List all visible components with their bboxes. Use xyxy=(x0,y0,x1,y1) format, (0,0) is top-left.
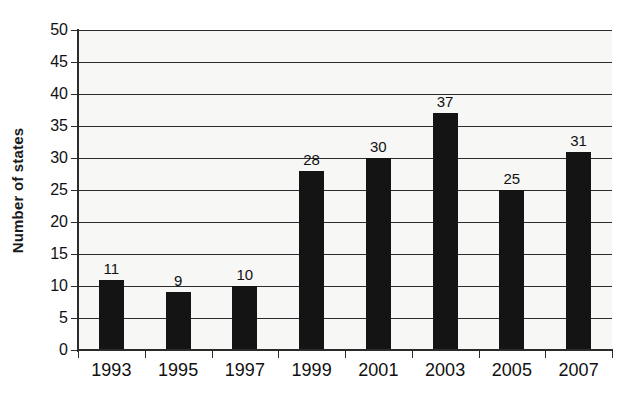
y-axis-tick-label: 20 xyxy=(38,213,68,231)
x-axis-tick-label: 2005 xyxy=(479,360,545,381)
x-axis-tick-label: 2003 xyxy=(412,360,478,381)
y-axis-title: Number of states xyxy=(2,60,34,320)
x-axis-tick-mark xyxy=(412,350,413,358)
x-axis-tick-mark xyxy=(278,350,279,358)
x-axis-tick-label: 2007 xyxy=(546,360,612,381)
y-axis-tick-mark xyxy=(71,286,78,287)
bar-value-label: 11 xyxy=(91,260,131,277)
y-axis-tick-label: 40 xyxy=(38,85,68,103)
x-axis-tick-mark xyxy=(212,350,213,358)
y-axis-tick-mark xyxy=(71,350,78,351)
y-axis-tick-mark xyxy=(71,30,78,31)
y-axis-tick-mark xyxy=(71,126,78,127)
bar-value-label: 31 xyxy=(559,132,599,149)
y-axis-tick-label: 5 xyxy=(38,309,68,327)
gridline xyxy=(78,318,612,319)
gridline xyxy=(78,30,612,31)
bar xyxy=(166,292,191,350)
y-axis-tick-label: 30 xyxy=(38,149,68,167)
x-axis-tick-mark xyxy=(612,350,613,358)
gridline xyxy=(78,62,612,63)
bar-value-label: 28 xyxy=(292,151,332,168)
bar xyxy=(566,152,591,350)
bar xyxy=(299,171,324,350)
y-axis-tick-mark xyxy=(71,318,78,319)
bar xyxy=(499,190,524,350)
x-axis-tick-mark xyxy=(545,350,546,358)
y-axis-tick-mark xyxy=(71,190,78,191)
y-axis-title-label: Number of states xyxy=(10,127,27,253)
x-axis-tick-label: 1997 xyxy=(212,360,278,381)
gridline xyxy=(78,254,612,255)
x-axis-tick-mark xyxy=(145,350,146,358)
bar xyxy=(366,158,391,350)
bar-value-label: 9 xyxy=(158,272,198,289)
gridline xyxy=(78,126,612,127)
y-axis-tick-mark xyxy=(71,254,78,255)
y-axis-tick-label: 45 xyxy=(38,53,68,71)
y-axis-tick-labels: 05101520253035404550 xyxy=(32,30,68,350)
y-axis-tick-mark xyxy=(71,222,78,223)
x-axis-tick-label: 1995 xyxy=(145,360,211,381)
x-axis-tick-label: 2001 xyxy=(345,360,411,381)
x-axis-tick-mark xyxy=(479,350,480,358)
y-axis-tick-label: 25 xyxy=(38,181,68,199)
bar xyxy=(232,286,257,350)
bar-value-label: 25 xyxy=(492,170,532,187)
y-axis-tick-mark xyxy=(71,158,78,159)
gridline xyxy=(78,190,612,191)
y-axis-tick-mark xyxy=(71,94,78,95)
bar-chart: Number of states 05101520253035404550 19… xyxy=(0,0,627,398)
y-axis-tick-label: 15 xyxy=(38,245,68,263)
gridline xyxy=(78,94,612,95)
y-axis-tick-label: 35 xyxy=(38,117,68,135)
bar-value-label: 37 xyxy=(425,93,465,110)
y-axis-tick-mark xyxy=(71,62,78,63)
x-axis-tick-mark xyxy=(345,350,346,358)
bar xyxy=(433,113,458,350)
bar-value-label: 30 xyxy=(358,138,398,155)
plot-area xyxy=(78,30,612,350)
y-axis-tick-label: 0 xyxy=(38,341,68,359)
x-axis-tick-label: 1993 xyxy=(78,360,144,381)
bar xyxy=(99,280,124,350)
y-axis-tick-label: 10 xyxy=(38,277,68,295)
bar-value-label: 10 xyxy=(225,266,265,283)
gridline xyxy=(78,222,612,223)
y-axis-tick-label: 50 xyxy=(38,21,68,39)
x-axis-tick-label: 1999 xyxy=(279,360,345,381)
gridline xyxy=(78,158,612,159)
x-axis-tick-mark xyxy=(78,350,79,358)
